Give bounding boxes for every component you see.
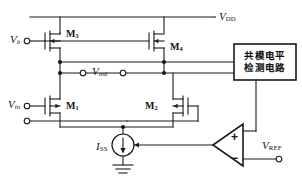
- junction-m3-drain-sense: [58, 60, 62, 64]
- m4-label: M4: [170, 42, 183, 52]
- schematic-svg: [0, 0, 302, 187]
- vb-terminal: [24, 38, 30, 44]
- m2-label: M2: [145, 101, 158, 111]
- opamp-triangle: [213, 124, 243, 166]
- m1-arrow-head: [55, 104, 59, 109]
- vout-terminal-left: [80, 70, 86, 76]
- iss-label: ISS: [96, 141, 108, 153]
- m4-arrow-head: [155, 39, 159, 44]
- vdd-label: VDD: [219, 11, 236, 23]
- circuit-diagram-canvas: VDD Vb Vin Vout VREF M3 M4 M1 M2 ISS 共模电…: [0, 0, 302, 187]
- m3-label: M3: [66, 29, 79, 39]
- isource-control-arrow: [134, 143, 139, 148]
- m1-label: M1: [66, 101, 79, 111]
- cm-detection-line2: 检测电路: [244, 62, 285, 74]
- opamp-plus-sign: +: [231, 131, 238, 143]
- junction-m4-drain-out: [162, 71, 166, 75]
- vin-terminal-bottom: [24, 118, 30, 124]
- vin-terminal-top: [24, 103, 30, 109]
- cm-detection-block-text: 共模电平 检测电路: [234, 44, 296, 80]
- vref-label: VREF: [262, 140, 282, 152]
- vref-terminal: [276, 156, 282, 162]
- m2-arrow-head: [174, 104, 178, 109]
- vout-terminal-right: [120, 70, 126, 76]
- vout-label: Vout: [92, 66, 107, 78]
- junction-m4-drain-sense: [162, 60, 166, 64]
- vin-label: Vin: [8, 99, 20, 111]
- vb-label: Vb: [10, 34, 20, 46]
- opamp-minus-sign: −: [231, 152, 238, 164]
- cm-detection-line1: 共模电平: [244, 50, 285, 62]
